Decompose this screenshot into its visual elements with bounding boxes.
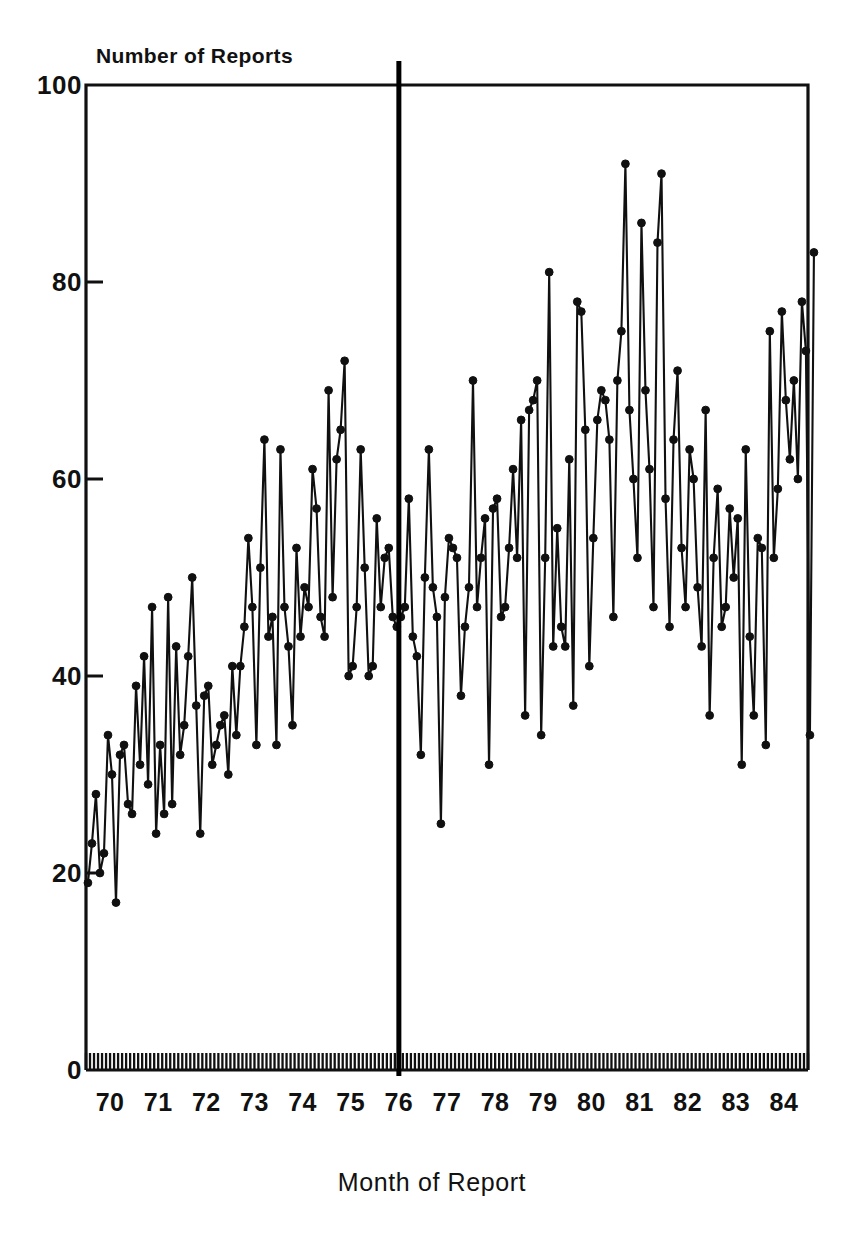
data-point-marker — [413, 652, 421, 660]
data-point-marker — [738, 761, 746, 769]
data-point-marker — [597, 386, 605, 394]
data-point-marker — [694, 583, 702, 591]
data-point-marker — [533, 377, 541, 385]
data-point-marker — [265, 633, 273, 641]
data-point-marker — [273, 741, 281, 749]
data-point-marker — [172, 643, 180, 651]
data-point-marker — [429, 583, 437, 591]
data-point-marker — [714, 485, 722, 493]
data-point-marker — [521, 712, 529, 720]
data-point-marker — [269, 613, 277, 621]
data-point-marker — [662, 495, 670, 503]
data-point-marker — [433, 613, 441, 621]
data-point-marker — [164, 593, 172, 601]
data-point-marker — [770, 554, 778, 562]
data-point-marker — [686, 446, 694, 454]
data-point-marker — [409, 633, 417, 641]
data-point-marker — [618, 327, 626, 335]
data-point-marker — [361, 564, 369, 572]
data-point-marker — [626, 406, 634, 414]
data-point-marker — [333, 455, 341, 463]
data-point-marker — [353, 603, 361, 611]
data-point-marker — [750, 712, 758, 720]
data-point-marker — [545, 268, 553, 276]
data-point-marker — [457, 692, 465, 700]
data-point-marker — [309, 465, 317, 473]
data-point-marker — [505, 544, 513, 552]
data-point-marker — [634, 554, 642, 562]
data-point-marker — [128, 810, 136, 818]
data-point-marker — [425, 446, 433, 454]
data-point-marker — [204, 682, 212, 690]
data-point-marker — [441, 593, 449, 601]
data-point-marker — [136, 761, 144, 769]
x-axis-minor-ticks — [86, 1053, 808, 1070]
data-point-marker — [116, 751, 124, 759]
data-point-marker — [216, 721, 224, 729]
data-point-marker — [92, 790, 100, 798]
data-point-marker — [421, 574, 429, 582]
data-point-marker — [525, 406, 533, 414]
data-point-marker — [108, 771, 116, 779]
data-point-marker — [248, 603, 256, 611]
data-point-marker — [257, 564, 265, 572]
data-point-marker — [317, 613, 325, 621]
data-point-marker — [601, 396, 609, 404]
y-axis-ticks — [86, 282, 103, 873]
data-point-marker — [144, 780, 152, 788]
data-point-marker — [549, 643, 557, 651]
data-point-marker — [646, 465, 654, 473]
data-point-marker — [329, 593, 337, 601]
data-point-marker — [365, 672, 373, 680]
data-point-marker — [786, 455, 794, 463]
data-point-marker — [228, 662, 236, 670]
data-point-marker — [184, 652, 192, 660]
data-point-marker — [357, 446, 365, 454]
data-point-marker — [509, 465, 517, 473]
data-point-marker — [722, 603, 730, 611]
data-point-marker — [124, 800, 132, 808]
data-point-marker — [289, 721, 297, 729]
data-point-marker — [766, 327, 774, 335]
data-point-marker — [630, 475, 638, 483]
data-point-marker — [381, 554, 389, 562]
data-point-marker — [313, 505, 321, 513]
data-point-marker — [557, 623, 565, 631]
data-point-marker — [802, 347, 810, 355]
data-point-marker — [208, 761, 216, 769]
data-point-marker — [577, 308, 585, 316]
data-point-marker — [613, 377, 621, 385]
data-point-marker — [553, 524, 561, 532]
data-point-marker — [473, 603, 481, 611]
data-point-marker — [674, 367, 682, 375]
data-point-marker — [120, 741, 128, 749]
data-point-marker — [112, 899, 120, 907]
data-point-marker — [100, 849, 108, 857]
data-point-marker — [240, 623, 248, 631]
data-point-marker — [369, 662, 377, 670]
data-point-marker — [658, 170, 666, 178]
data-point-marker — [650, 603, 658, 611]
data-point-marker — [341, 357, 349, 365]
data-point-marker — [349, 662, 357, 670]
data-point-marker — [774, 485, 782, 493]
data-point-marker — [297, 633, 305, 641]
data-point-marker — [565, 455, 573, 463]
data-point-marker — [666, 623, 674, 631]
chart-figure: Number of Reports 020406080100 707172737… — [0, 0, 864, 1250]
data-point-marker — [465, 583, 473, 591]
data-point-marker — [754, 534, 762, 542]
data-point-marker — [104, 731, 112, 739]
data-point-marker — [790, 377, 798, 385]
data-point-marker — [782, 396, 790, 404]
data-point-marker — [180, 721, 188, 729]
data-point-marker — [321, 633, 329, 641]
data-point-marker — [176, 751, 184, 759]
data-point-marker — [401, 603, 409, 611]
data-point-marker — [252, 741, 260, 749]
data-point-marker — [581, 426, 589, 434]
data-point-marker — [84, 879, 92, 887]
data-point-marker — [277, 446, 285, 454]
data-point-marker — [678, 544, 686, 552]
data-point-marker — [642, 386, 650, 394]
